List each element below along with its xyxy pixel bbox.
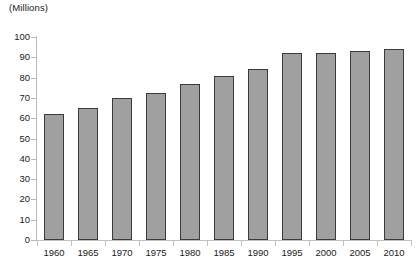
y-axis-labels: 0102030405060708090100 — [0, 0, 30, 267]
x-axis-tick-label: 1975 — [139, 248, 173, 258]
y-axis-tick-label: 0 — [2, 235, 30, 245]
x-axis-tick — [71, 241, 72, 246]
x-axis-tick-label: 2005 — [343, 248, 377, 258]
y-axis-tick-label: 40 — [2, 154, 30, 164]
x-axis-tick — [241, 241, 242, 246]
x-axis-tick — [309, 241, 310, 246]
x-axis-tick-label: 1960 — [37, 248, 71, 258]
bar — [282, 53, 302, 240]
x-axis-tick-label: 1965 — [71, 248, 105, 258]
x-axis-tick — [377, 241, 378, 246]
y-axis-tick-label: 50 — [2, 134, 30, 144]
x-axis-tick — [275, 241, 276, 246]
bar — [350, 51, 370, 240]
x-axis-line — [36, 240, 412, 241]
x-axis-tick-label: 1985 — [207, 248, 241, 258]
bar — [180, 84, 200, 240]
bar — [248, 69, 268, 240]
x-axis-tick — [343, 241, 344, 246]
x-axis-tick — [411, 241, 412, 246]
plot-area — [37, 37, 411, 240]
y-axis-tick-label: 90 — [2, 52, 30, 62]
x-axis-tick-label: 1995 — [275, 248, 309, 258]
y-axis-tick-label: 80 — [2, 73, 30, 83]
x-axis-tick-label: 2000 — [309, 248, 343, 258]
x-axis-tick-label: 1970 — [105, 248, 139, 258]
x-axis-tick — [37, 241, 38, 246]
bar — [146, 93, 166, 240]
y-axis-tick-label: 100 — [2, 32, 30, 42]
y-axis-tick-label: 60 — [2, 113, 30, 123]
x-axis-tick-label: 2010 — [377, 248, 411, 258]
y-axis-tick-label: 70 — [2, 93, 30, 103]
x-axis-tick — [139, 241, 140, 246]
x-axis-tick-label: 1990 — [241, 248, 275, 258]
bar — [214, 76, 234, 240]
y-axis-tick-label: 10 — [2, 215, 30, 225]
x-axis-tick — [105, 241, 106, 246]
bar-chart: (Millions) 0102030405060708090100 196019… — [0, 0, 417, 267]
x-axis-tick — [207, 241, 208, 246]
bar — [78, 108, 98, 240]
bar — [316, 53, 336, 240]
bar — [112, 98, 132, 240]
bar — [44, 114, 64, 240]
y-axis-tick-label: 20 — [2, 194, 30, 204]
y-axis-tick-label: 30 — [2, 174, 30, 184]
x-axis-tick-label: 1980 — [173, 248, 207, 258]
x-axis-tick — [173, 241, 174, 246]
bar — [384, 49, 404, 240]
